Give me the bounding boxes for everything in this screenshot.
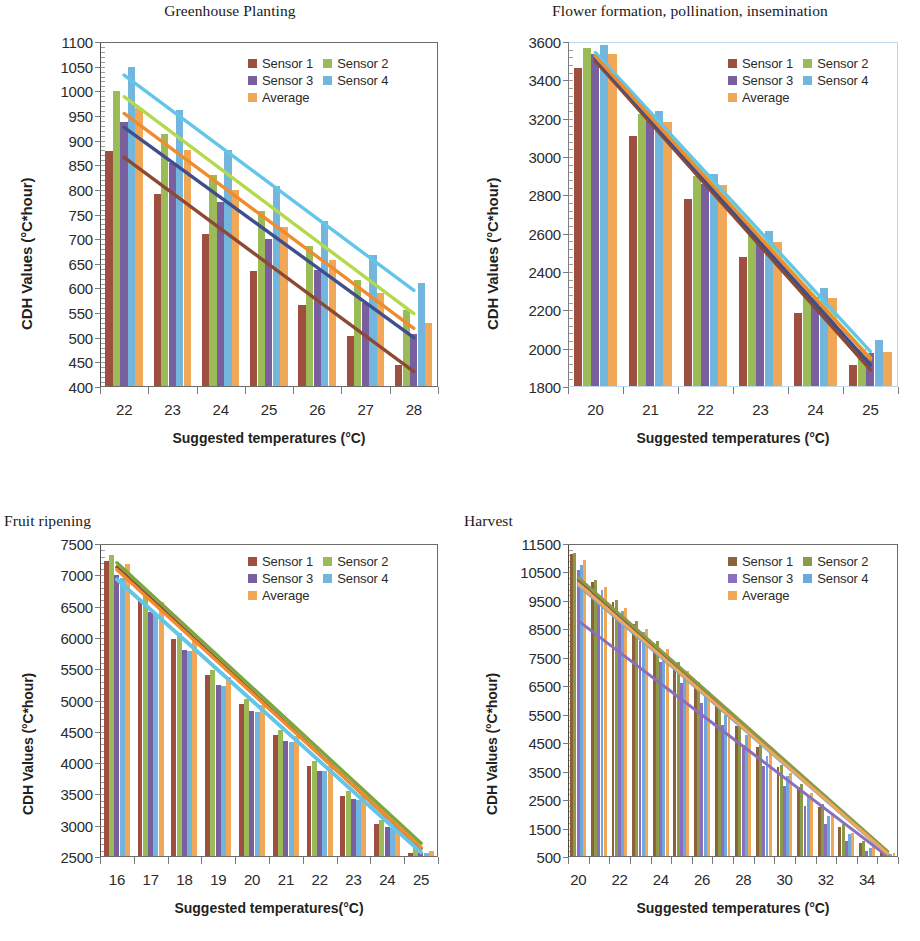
y-axis-tick-mark [563,572,569,573]
bar [120,122,127,387]
y-axis-tick-label: 3000 [528,149,561,166]
bar [209,175,216,387]
y-axis-minor-tick [569,126,573,127]
bar [138,599,143,857]
bar [205,675,210,857]
bar [748,234,756,387]
bar [418,283,425,387]
bar [273,186,280,387]
bar [866,353,874,387]
chart-panel-greenhouse-planting: Greenhouse Planting CDH Values (°C*hour)… [0,0,460,470]
bar [239,704,244,857]
y-axis-minor-tick [101,146,105,147]
bar [418,853,423,857]
y-axis-tick-label: 6500 [60,598,93,615]
bar [278,730,283,857]
bar [693,176,701,387]
legend-label: Sensor 4 [337,73,388,88]
y-axis-tick-label: 4500 [60,723,93,740]
y-axis-minor-tick [101,57,105,58]
bar [159,602,164,857]
y-axis-tick-label: 600 [69,280,93,297]
y-axis-minor-tick [569,379,573,380]
x-axis-tick-label: 19 [210,871,226,888]
legend-item: Sensor 2 [803,56,868,71]
y-axis-minor-tick [569,264,573,265]
bar [810,793,813,857]
x-axis-tick-mark [836,857,837,864]
bar [794,313,802,387]
y-axis-minor-tick [569,88,573,89]
x-axis-tick-mark [857,857,858,864]
y-axis-tick-label: 550 [69,305,93,322]
bar [187,651,192,857]
bar [329,260,336,387]
y-axis-tick-label: 3500 [60,786,93,803]
y-axis-minor-tick [101,81,105,82]
legend-item: Sensor 3 [728,571,793,586]
bar [202,234,209,387]
legend-swatch-icon [803,59,812,68]
bar [655,111,663,387]
legend-label: Sensor 1 [742,554,793,569]
bar [148,612,153,857]
y-axis-tick-mark [95,42,101,43]
x-axis-title: Suggested temperatures (°C) [568,430,898,446]
legend-item: Sensor 2 [323,554,388,569]
bar [748,732,751,857]
bar [663,122,671,387]
bar [114,575,119,857]
bar [260,705,265,857]
y-axis-tick-label: 5000 [60,692,93,709]
legend-item: Sensor 4 [323,73,388,88]
y-axis-minor-tick [569,149,573,150]
y-axis-tick-mark [95,826,101,827]
legend-label: Sensor 1 [262,56,313,71]
y-axis-minor-tick [569,550,573,551]
y-axis-tick-label: 800 [69,181,93,198]
bar [192,640,197,857]
y-axis-tick-mark [563,544,569,545]
x-axis-tick-mark [134,857,135,864]
y-axis-minor-tick [101,52,105,53]
x-axis-tick-mark [100,387,101,394]
y-axis-minor-tick [569,356,573,357]
y-axis-minor-tick [569,142,573,143]
legend-swatch-icon [323,59,332,68]
x-axis-tick-label: 24 [379,871,395,888]
y-axis-tick-mark [95,215,101,216]
bar [583,48,591,387]
y-axis-tick-mark [563,658,569,659]
bar [354,280,361,387]
y-axis-minor-tick [101,42,105,43]
legend-swatch-icon [728,76,737,85]
y-axis-minor-tick [569,165,573,166]
y-axis-minor-tick [101,96,105,97]
y-axis-tick-mark [95,141,101,142]
x-axis-tick-label: 24 [653,871,669,888]
legend-swatch-icon [803,76,812,85]
x-axis-tick-mark [843,387,844,394]
y-axis-minor-tick [569,234,573,235]
x-axis-title: Suggested temperatures (°C) [568,900,898,916]
y-axis-minor-tick [569,257,573,258]
legend-swatch-icon [248,574,257,583]
legend-label: Average [262,588,310,603]
bar [666,649,669,857]
legend-label: Sensor 4 [817,73,868,88]
y-axis-minor-tick [569,249,573,250]
x-axis-tick-mark [100,857,101,864]
legend-item: Average [248,90,313,105]
legend-item: Average [728,588,793,603]
y-axis-minor-tick [101,544,105,545]
x-axis-tick-label: 26 [309,401,325,418]
legend-label: Sensor 3 [742,571,793,586]
y-axis-tick-label: 9500 [528,592,561,609]
x-axis-tick-mark [168,857,169,864]
legend-swatch-icon [803,574,812,583]
bar [314,270,321,387]
legend-item: Sensor 2 [323,56,388,71]
chart-title: Flower formation, pollination, inseminat… [460,2,920,20]
bar [811,297,819,387]
y-axis-minor-tick [101,111,105,112]
